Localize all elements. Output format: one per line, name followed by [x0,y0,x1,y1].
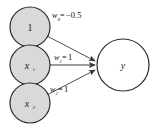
edge-label-x2: w 2 = 1 [50,84,68,96]
weight-w0-equals: = [60,11,65,20]
node-x1-subscript: 1 [33,67,36,72]
node-x2-label: x [24,98,30,109]
edge-label-x1: w 1 = 1 [54,52,72,64]
weight-w1-equals: = [62,53,67,62]
weight-w2-value: 1 [64,84,68,94]
node-x2-circle [10,83,50,123]
node-x1: x 1 [10,45,50,85]
weight-w0-value: −0.5 [66,10,81,20]
weight-w1-value: 1 [68,52,72,62]
node-output-label: y [120,60,126,71]
edge-label-bias: w 0 = −0.5 [52,10,81,22]
node-output-y: y [97,39,149,91]
perceptron-diagram: 1 x 1 x 2 y w 0 = −0.5 w 1 = 1 [0,0,155,126]
node-bias: 1 [10,7,50,47]
node-bias-label: 1 [28,22,33,33]
weight-w2-equals: = [58,85,63,94]
diagram-canvas: 1 x 1 x 2 y w 0 = −0.5 w 1 = 1 [0,0,155,126]
node-x1-circle [10,45,50,85]
node-x2: x 2 [10,83,50,123]
node-x1-label: x [24,60,30,71]
